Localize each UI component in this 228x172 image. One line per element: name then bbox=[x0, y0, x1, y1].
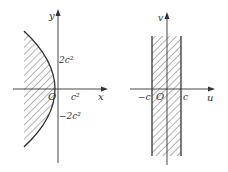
x-tick-c-squared: c² bbox=[71, 92, 80, 102]
origin-label: O bbox=[156, 91, 164, 102]
u-axis-label: u bbox=[207, 92, 213, 103]
diagram-canvas: y x O c² 2c² −2c² v u O −c c bbox=[0, 0, 228, 172]
parabola-figure: y x O c² 2c² −2c² bbox=[13, 9, 108, 163]
u-tick-c: c bbox=[183, 92, 188, 102]
y-axis-label: y bbox=[48, 10, 55, 21]
strip-figure: v u O −c c bbox=[130, 12, 215, 165]
origin-label: O bbox=[48, 91, 56, 102]
u-axis-arrow-icon bbox=[208, 87, 215, 92]
v-axis-arrow-icon bbox=[165, 12, 170, 19]
x-axis-label: x bbox=[98, 91, 104, 102]
v-axis-label: v bbox=[158, 13, 163, 23]
y-tick-2c-squared: 2c² bbox=[58, 55, 74, 65]
y-axis-arrow-icon bbox=[56, 9, 61, 16]
u-tick-minus-c: −c bbox=[138, 92, 151, 102]
y-tick-minus-2c-squared: −2c² bbox=[59, 111, 81, 121]
